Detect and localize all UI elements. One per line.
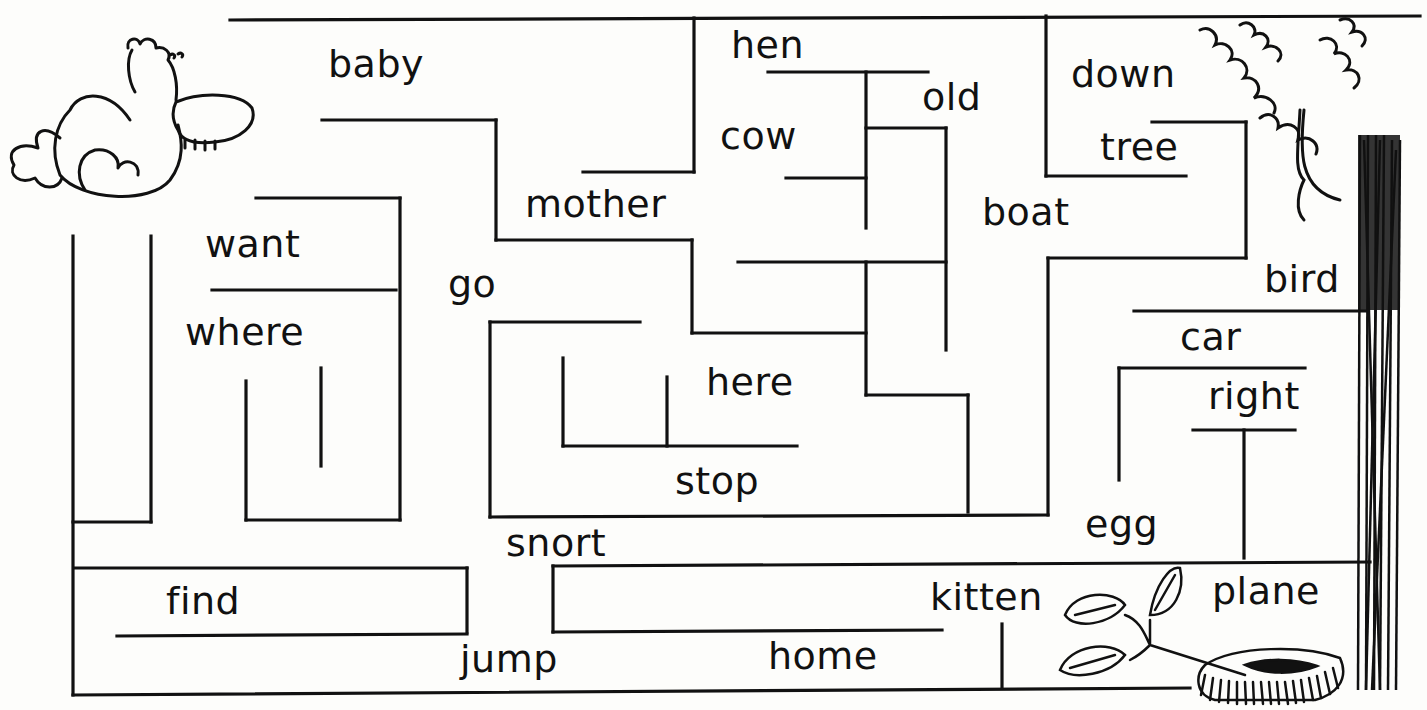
maze-word-tree: tree (1100, 128, 1178, 166)
maze-word-hen: hen (731, 26, 804, 64)
maze-word-old: old (922, 78, 981, 116)
maze-word-boat: boat (982, 193, 1070, 231)
maze-word-home: home (768, 637, 878, 675)
maze-word-snort: snort (506, 524, 606, 562)
maze-word-right: right (1208, 377, 1300, 415)
maze-word-kitten: kitten (930, 578, 1043, 616)
maze-word-cow: cow (720, 117, 797, 155)
maze-word-plane: plane (1212, 572, 1320, 610)
maze-word-mother: mother (525, 185, 666, 223)
maze-word-go: go (448, 265, 496, 303)
maze-word-here: here (706, 363, 794, 401)
maze-wall (117, 634, 467, 636)
maze-word-jump: jump (460, 640, 558, 678)
maze-wall (73, 688, 1190, 695)
maze-word-where: where (185, 313, 304, 351)
maze-word-bird: bird (1264, 260, 1340, 298)
maze-wall (553, 630, 942, 632)
maze-word-car: car (1180, 318, 1241, 356)
maze-word-baby: baby (328, 45, 424, 83)
maze-word-want: want (205, 225, 300, 263)
maze-word-down: down (1071, 55, 1176, 93)
maze-word-find: find (166, 582, 240, 620)
maze-word-egg: egg (1085, 505, 1158, 543)
maze-wall (490, 515, 1048, 517)
maze-word-stop: stop (675, 462, 759, 500)
bird-icon (0, 30, 265, 210)
